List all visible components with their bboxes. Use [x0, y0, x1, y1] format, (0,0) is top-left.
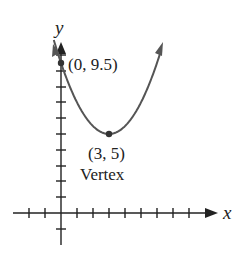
- curve-right-arrow-icon: [155, 42, 163, 56]
- vertex-label: Vertex: [80, 165, 125, 184]
- y-intercept-label: (0, 9.5): [68, 55, 118, 74]
- y-intercept-point: [58, 60, 64, 66]
- y-axis: [56, 52, 66, 245]
- vertex-coords-label: (3, 5): [88, 144, 125, 163]
- parabola-graph: y x (0, 9.5) (3, 5) Vertex: [0, 0, 246, 253]
- x-axis-label: x: [222, 202, 232, 223]
- vertex-point: [106, 131, 112, 137]
- x-axis-arrow-icon: [205, 208, 218, 218]
- x-axis: [13, 208, 210, 218]
- y-axis-label: y: [53, 17, 64, 38]
